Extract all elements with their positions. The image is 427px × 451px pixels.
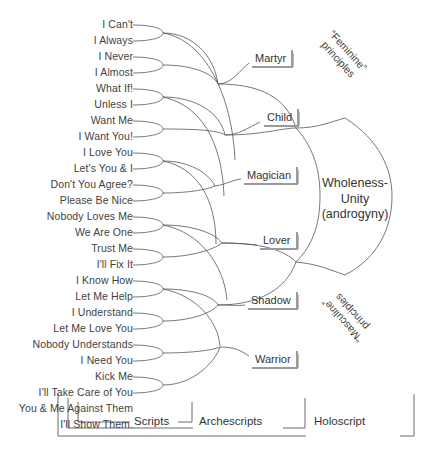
script-item[interactable]: We Are One xyxy=(75,227,133,238)
script-item[interactable]: I Understand xyxy=(72,307,133,318)
script-item[interactable]: I'll Fix It xyxy=(97,259,133,270)
script-item[interactable]: You & Me Against Them xyxy=(19,403,133,414)
script-item[interactable]: Unless I xyxy=(94,99,133,110)
archetype-magician[interactable]: Magician xyxy=(242,167,298,183)
wholeness-line-3: (androgyny) xyxy=(296,207,414,223)
archetype-child[interactable]: Child xyxy=(262,109,299,125)
wholeness-line-2: Unity xyxy=(296,192,414,208)
script-item[interactable]: What If! xyxy=(96,83,133,94)
bracket-label-scripts: Scripts xyxy=(130,415,173,427)
scripts-list: I Can't I Always I Never I Almost What I… xyxy=(0,0,133,451)
archetype-martyr[interactable]: Martyr xyxy=(250,50,293,66)
script-item[interactable]: Nobody Understands xyxy=(33,339,133,350)
script-item[interactable]: I Know How xyxy=(76,275,133,286)
script-item[interactable]: Let's You & I xyxy=(74,163,133,174)
diagram-canvas: I Can't I Always I Never I Almost What I… xyxy=(0,0,427,451)
bracket-label-holoscript: Holoscript xyxy=(310,415,369,427)
script-item[interactable]: Don't You Agree? xyxy=(51,179,133,190)
archetype-lover[interactable]: Lover xyxy=(258,232,298,248)
script-item[interactable]: Trust Me xyxy=(91,243,133,254)
script-item[interactable]: I Almost xyxy=(95,67,133,78)
script-item[interactable]: Want Me xyxy=(91,115,133,126)
script-item[interactable]: Let Me Love You xyxy=(53,323,133,334)
bracket-label-archescripts: Archescripts xyxy=(195,415,266,427)
archetype-shadow[interactable]: Shadow xyxy=(246,292,298,308)
script-item[interactable]: I Can't xyxy=(102,19,133,30)
script-item[interactable]: Kick Me xyxy=(95,371,133,382)
archetype-warrior[interactable]: Warrior xyxy=(250,351,298,367)
script-item[interactable]: I'll Show Them! xyxy=(60,419,133,430)
script-item[interactable]: Please Be Nice xyxy=(60,195,133,206)
wholeness-line-1: Wholeness- xyxy=(296,176,414,192)
script-item[interactable]: I Always xyxy=(94,35,133,46)
script-item[interactable]: I Love You xyxy=(83,147,133,158)
holoscript-center: Wholeness- Unity (androgyny) xyxy=(296,176,414,223)
script-item[interactable]: I'll Take Care of You xyxy=(39,387,133,398)
script-item[interactable]: I Need You xyxy=(81,355,133,366)
script-item[interactable]: Nobody Loves Me xyxy=(47,211,133,222)
script-item[interactable]: I Want You! xyxy=(79,131,133,142)
script-item[interactable]: I Never xyxy=(98,51,133,62)
script-item[interactable]: Let Me Help xyxy=(75,291,133,302)
